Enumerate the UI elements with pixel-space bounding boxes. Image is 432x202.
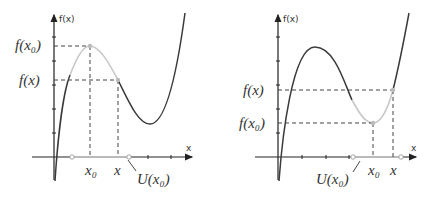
left-x-axis-label: x (186, 144, 191, 153)
right-x0-label: x₀ (368, 163, 380, 178)
right-panel (255, 13, 416, 181)
left-panel (32, 13, 192, 181)
right-curve-highlight (352, 90, 393, 123)
right-fx0-label: f(x₀) (239, 116, 265, 131)
left-fx0-label: f(x₀) (15, 38, 41, 53)
left-fx-label: f(x) (19, 73, 40, 88)
right-x-label: x (390, 163, 397, 178)
left-curve (55, 75, 70, 181)
left-curve-highlight (70, 46, 118, 80)
right-neighborhood-label: U(x₀) (316, 172, 349, 187)
right-x-axis-label: x (411, 144, 416, 153)
left-y-axis-label: f(x) (59, 15, 75, 24)
left-neighborhood-label: U(x₀) (137, 172, 170, 187)
left-x0-label: x₀ (85, 163, 97, 178)
right-curve (279, 47, 352, 181)
left-x-label: x (114, 163, 121, 178)
right-y-axis-label: f(x) (283, 15, 299, 24)
right-fx-label: f(x) (243, 83, 264, 98)
